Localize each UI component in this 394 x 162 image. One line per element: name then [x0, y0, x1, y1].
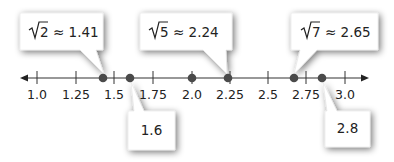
number-line-diagram: 1.0 1.25 1.5 1.75 2.0 2.25 2.5 2.75 3.0 … [0, 0, 394, 162]
radicand: 2 [40, 24, 49, 40]
tick-label: 1.5 [104, 87, 124, 102]
right-arrow-icon [361, 75, 369, 82]
callout-sqrt2-text: 2 ≈ 1.41 [29, 22, 99, 40]
callout-sqrt2 [20, 13, 104, 74]
point-2-0 [188, 74, 197, 83]
point-1-6 [126, 74, 135, 83]
approx-value: ≈ 1.41 [53, 24, 99, 40]
tick-label: 2.75 [292, 87, 320, 102]
callout-sqrt7-text: 7 ≈ 2.65 [301, 22, 371, 40]
point-2-8 [318, 74, 327, 83]
callout-sqrt5 [140, 13, 232, 74]
tick-label: 2.0 [182, 87, 202, 102]
callout-2-8-label: 2.8 [337, 120, 358, 136]
tick-label: 1.25 [62, 87, 90, 102]
tick-label: 1.75 [139, 87, 167, 102]
approx-value: ≈ 2.65 [325, 24, 371, 40]
tick-label: 2.25 [216, 87, 244, 102]
tick-label: 2.5 [258, 87, 278, 102]
callout-sqrt7 [291, 13, 378, 74]
point-2-65 [290, 74, 299, 83]
point-2-24 [224, 74, 233, 83]
callout-1-6-label: 1.6 [141, 122, 162, 138]
tick-labels: 1.0 1.25 1.5 1.75 2.0 2.25 2.5 2.75 3.0 [27, 87, 355, 102]
tick-label: 3.0 [335, 87, 355, 102]
radicand: 5 [160, 24, 169, 40]
tick-label: 1.0 [27, 87, 47, 102]
callout-sqrt5-text: 5 ≈ 2.24 [149, 22, 219, 40]
point-1-41 [99, 74, 108, 83]
left-arrow-icon [20, 75, 28, 82]
approx-value: ≈ 2.24 [173, 24, 219, 40]
radicand: 7 [312, 24, 321, 40]
